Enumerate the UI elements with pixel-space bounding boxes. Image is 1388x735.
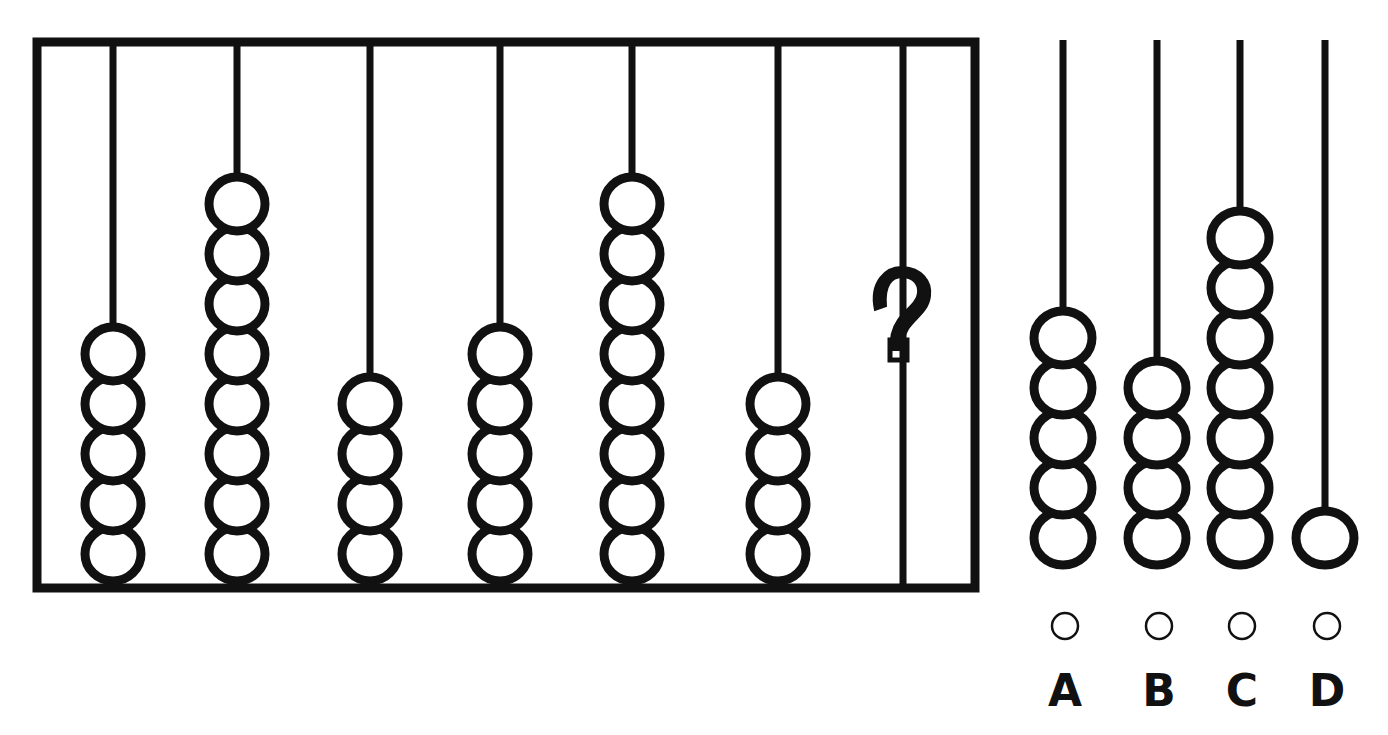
answer-option-A[interactable]	[1034, 40, 1092, 565]
puzzle-root: ABCD	[0, 0, 1388, 735]
option-letter-B: B	[1142, 665, 1176, 716]
bead	[209, 177, 265, 231]
bead	[472, 327, 528, 381]
abacus-rod-3	[342, 46, 398, 581]
option-choice-C[interactable]: C	[1226, 613, 1258, 716]
abacus-rod-5	[604, 46, 660, 581]
option-letter-A: A	[1048, 665, 1082, 716]
bead	[1034, 311, 1092, 365]
answer-labels-group[interactable]: ABCD	[1048, 613, 1345, 716]
answer-option-B[interactable]	[1128, 40, 1186, 565]
option-bubble-C[interactable]	[1229, 613, 1255, 639]
bead	[342, 377, 398, 431]
bead	[1128, 361, 1186, 415]
option-bubble-B[interactable]	[1146, 613, 1172, 639]
answer-option-D[interactable]	[1296, 40, 1354, 565]
option-choice-B[interactable]: B	[1142, 613, 1176, 716]
abacus-rod-2	[209, 46, 265, 581]
option-choice-A[interactable]: A	[1048, 613, 1082, 716]
bead	[1296, 511, 1354, 565]
option-letter-C: C	[1226, 665, 1258, 716]
bead	[1211, 211, 1269, 265]
abacus-rod-6	[750, 46, 806, 581]
answer-options-group[interactable]	[1034, 40, 1354, 565]
answer-option-C[interactable]	[1211, 40, 1269, 565]
option-bubble-D[interactable]	[1314, 613, 1340, 639]
puzzle-canvas: ABCD	[0, 0, 1388, 735]
abacus-rod-1	[85, 46, 141, 581]
option-choice-D[interactable]: D	[1309, 613, 1346, 716]
sequence-rods-group	[85, 46, 903, 584]
option-bubble-A[interactable]	[1052, 613, 1078, 639]
bead	[85, 327, 141, 381]
option-letter-D: D	[1309, 665, 1346, 716]
bead	[750, 377, 806, 431]
abacus-rod-4	[472, 46, 528, 581]
bead	[604, 177, 660, 231]
